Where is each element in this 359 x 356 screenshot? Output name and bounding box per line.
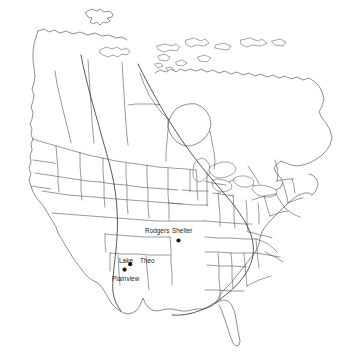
map-figure: Rodgers Shelter Lake Theo Plainview bbox=[0, 0, 359, 356]
site-label-theo: Theo bbox=[140, 257, 155, 264]
site-label-rodgers: Rodgers bbox=[145, 227, 169, 235]
site-label-plainview: Plainview bbox=[112, 275, 140, 282]
alaska-outline bbox=[86, 9, 113, 25]
rodgers-shelter-marker[interactable] bbox=[176, 238, 180, 242]
plainview-marker[interactable] bbox=[123, 268, 127, 272]
arctic-islands bbox=[100, 38, 286, 72]
north-america-map: Rodgers Shelter Lake Theo Plainview bbox=[0, 0, 359, 356]
site-label-lake: Lake bbox=[119, 257, 133, 264]
site-label-shelter: Shelter bbox=[172, 227, 193, 234]
